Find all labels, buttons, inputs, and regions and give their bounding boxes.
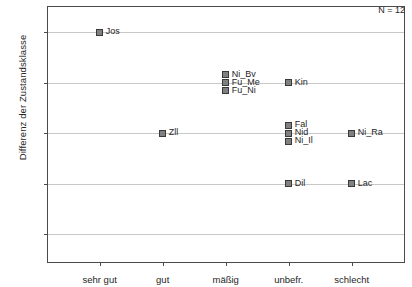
data-point-label: Dil xyxy=(295,178,306,188)
x-axis-tick-mark xyxy=(163,262,164,266)
data-point-marker[interactable] xyxy=(222,71,229,78)
data-point-label: Ni_Ra xyxy=(358,127,383,137)
gridline xyxy=(48,234,404,235)
data-point-marker[interactable] xyxy=(285,138,292,145)
data-point-label: Jos xyxy=(106,26,120,36)
data-point-marker[interactable] xyxy=(285,180,292,187)
data-point-marker[interactable] xyxy=(222,79,229,86)
data-point-label: Ni_Il xyxy=(295,135,313,145)
data-point-marker[interactable] xyxy=(222,87,229,94)
x-axis-tick-mark xyxy=(352,262,353,266)
y-axis-tick-mark xyxy=(44,83,48,84)
data-point-label: Fu_Ni xyxy=(232,85,256,95)
y-axis-tick-mark xyxy=(44,32,48,33)
sample-size-annotation: N = 12 xyxy=(378,5,405,15)
data-point-label: Lac xyxy=(358,178,373,188)
data-point-marker[interactable] xyxy=(285,122,292,129)
y-axis-tick-mark xyxy=(44,234,48,235)
scatter-chart: + 2+ 10- 1- 2sehr gutgutmäßigunbefr.schl… xyxy=(0,0,412,287)
data-point-marker[interactable] xyxy=(285,130,292,137)
data-point-label: Kin xyxy=(295,77,308,87)
data-point-marker[interactable] xyxy=(348,180,355,187)
data-point-marker[interactable] xyxy=(348,130,355,137)
y-axis-tick-mark xyxy=(44,133,48,134)
x-axis-tick-mark xyxy=(226,262,227,266)
y-axis-tick-mark xyxy=(44,184,48,185)
y-axis-title: Differenz der Zustandsklasse xyxy=(17,13,28,183)
data-point-label: Zll xyxy=(169,127,179,137)
x-axis-tick-label: schlecht xyxy=(307,274,397,285)
data-point-marker[interactable] xyxy=(285,79,292,86)
x-axis-tick-mark xyxy=(289,262,290,266)
data-point-marker[interactable] xyxy=(96,29,103,36)
data-point-marker[interactable] xyxy=(159,130,166,137)
x-axis-tick-mark xyxy=(100,262,101,266)
plot-area: + 2+ 10- 1- 2sehr gutgutmäßigunbefr.schl… xyxy=(47,6,405,263)
